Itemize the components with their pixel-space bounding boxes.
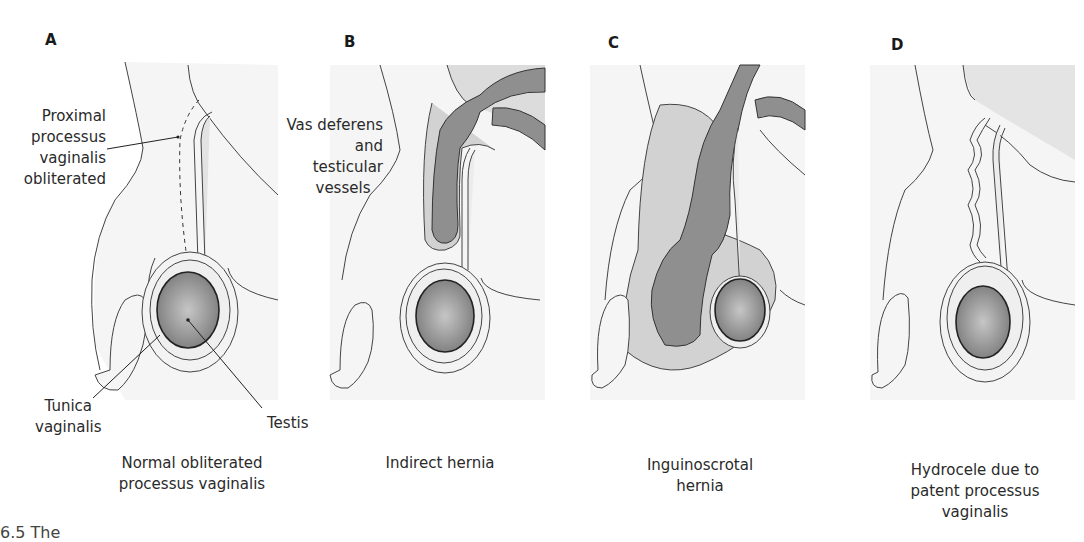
panel-label-c: C: [608, 34, 619, 52]
callout-testis: Testis: [267, 413, 309, 434]
panel-b-title: Indirect hernia: [380, 453, 500, 474]
panel-label-a: A: [45, 31, 57, 49]
panel-d-title: Hydrocele due to patent processus vagina…: [905, 460, 1045, 523]
panel-d-drawing: [870, 65, 1075, 400]
panel-c-drawing: [590, 65, 805, 400]
callout-line: vessels: [283, 178, 383, 199]
title-line: vaginalis: [905, 502, 1045, 523]
title-line: patent processus: [905, 481, 1045, 502]
panel-a-drawing: [92, 62, 278, 408]
callout-vas-deferens: Vas deferens and testicular vessels: [283, 115, 383, 199]
title-line: Normal obliterated: [112, 453, 272, 474]
panel-label-b: B: [344, 33, 355, 51]
callout-line: and testicular: [283, 136, 383, 178]
callout-line: Vas deferens: [283, 115, 383, 136]
panel-label-d: D: [891, 36, 903, 54]
callout-line: vaginalis: [35, 417, 102, 438]
title-line: Hydrocele due to: [905, 460, 1045, 481]
title-line: hernia: [640, 476, 760, 497]
title-line: Indirect hernia: [380, 453, 500, 474]
callout-line: obliterated: [14, 169, 106, 190]
callout-proximal-processus: Proximal processus vaginalis obliterated: [14, 106, 106, 190]
callout-line: vaginalis: [14, 148, 106, 169]
panel-c-title: Inguinoscrotal hernia: [640, 455, 760, 497]
panel-a-title: Normal obliterated processus vaginalis: [112, 453, 272, 495]
title-line: processus vaginalis: [112, 474, 272, 495]
callout-line: Proximal: [14, 106, 106, 127]
title-line: Inguinoscrotal: [640, 455, 760, 476]
callout-tunica-vaginalis: Tunica vaginalis: [35, 396, 102, 438]
figure-caption-fragment: 6.5 The: [0, 523, 60, 542]
callout-line: processus: [14, 127, 106, 148]
callout-line: Tunica: [35, 396, 102, 417]
